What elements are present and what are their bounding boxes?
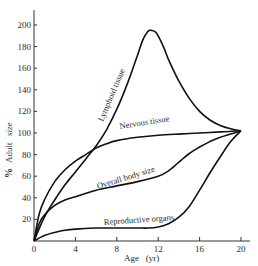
x-tick-label: 20 (237, 244, 247, 254)
y-tick-label: 40 (22, 193, 32, 203)
label-overall-body-size: Overall body size (96, 164, 156, 191)
y-axis-title-adult: Adult (4, 142, 14, 163)
y-tick-label: 60 (22, 171, 32, 181)
y-tick-label: 80 (22, 150, 32, 160)
y-tick-label: 140 (18, 85, 32, 95)
label-nervous-tissue: Nervous tissue (119, 113, 170, 131)
y-axis-title-pct: % (3, 168, 14, 178)
y-axis-title: % Adult size (3, 122, 14, 178)
y-tick-label: 160 (18, 63, 32, 73)
growth-curves-chart: 20406080100120140160180200048121620 Lymp… (0, 0, 258, 266)
y-tick-label: 120 (18, 106, 32, 116)
curves (34, 30, 241, 241)
y-tick-label: 20 (22, 214, 32, 224)
x-tick-label: 8 (115, 244, 120, 254)
y-tick-label: 180 (18, 42, 32, 52)
x-axis-title: Age (yr) (124, 253, 159, 263)
x-tick-label: 16 (195, 244, 205, 254)
curve-lymphoid-tissue (34, 30, 241, 241)
x-tick-label: 4 (73, 244, 78, 254)
x-tick-label: 0 (32, 244, 37, 254)
y-tick-label: 200 (18, 20, 32, 30)
y-axis-title-size: size (4, 122, 14, 136)
y-tick-label: 100 (18, 128, 32, 138)
